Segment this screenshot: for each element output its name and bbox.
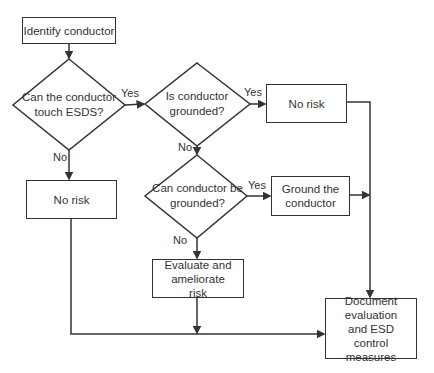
document-box: Document evaluation and ESD control meas… [325, 298, 417, 359]
ground-conductor-box: Ground the conductor [271, 176, 350, 216]
edge-label-grounded-no: No [178, 141, 192, 153]
no-risk-left-box: No risk [26, 180, 117, 219]
decision-is-grounded-label: Is conductor grounded? [158, 89, 236, 119]
edge-label-grounded-yes: Yes [244, 86, 262, 98]
edge-label-can-ground-no: No [173, 234, 187, 246]
identify-conductor-box: Identify conductor [22, 17, 116, 44]
edge-label-touch-no: No [53, 151, 67, 163]
decision-touch-esds-label: Can the conductor touch ESDS? [18, 90, 120, 120]
edge-label-can-ground-yes: Yes [248, 179, 266, 191]
evaluate-box: Evaluate and ameliorate risk [152, 259, 244, 298]
decision-can-ground-label: Can conductor be grounded? [150, 181, 245, 211]
edge-label-touch-yes: Yes [121, 87, 139, 99]
no-risk-top-box: No risk [266, 84, 347, 123]
